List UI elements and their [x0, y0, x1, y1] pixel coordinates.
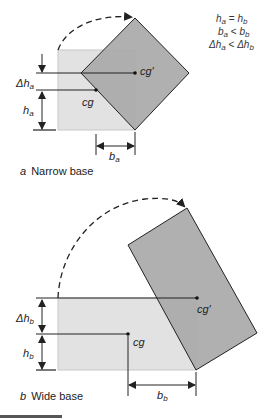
panel-a-cg-label: cg: [82, 96, 95, 108]
panel-b-cg-prime-point: [195, 296, 199, 300]
relation-b: ba < bb: [218, 26, 250, 39]
panel-a-caption: aNarrow base: [20, 165, 93, 177]
panel-b-delta-h-label: Δhb: [15, 312, 35, 326]
footer-bar: [0, 415, 62, 418]
relation-h: ha = hb: [216, 13, 248, 26]
panel-a-cg-point: [94, 88, 98, 92]
panel-b-cg-label: cg: [133, 336, 146, 348]
relations-legend: ha = hb ba < bb Δha < Δhb: [208, 13, 254, 52]
panel-b-cg-prime-label: cg': [197, 303, 212, 315]
stability-diagram: cg' cg Δha ha ba aNarrow base ha = hb ba…: [0, 0, 272, 420]
panel-b-cg-point: [126, 332, 130, 336]
panel-b-wide-base: cg' cg Δhb hb bb bWide base: [15, 198, 257, 403]
panel-b-h-label: hb: [23, 347, 34, 361]
panel-a-b-label: ba: [109, 150, 120, 164]
panel-a-h-label: ha: [23, 104, 34, 118]
panel-b-b-label: bb: [157, 389, 168, 403]
panel-b-caption: bWide base: [20, 390, 83, 402]
panel-a-cg-prime-label: cg': [140, 65, 155, 77]
panel-a-narrow-base: cg' cg Δha ha ba aNarrow base: [15, 17, 189, 177]
panel-a-cg-prime-point: [133, 71, 137, 75]
panel-a-delta-h-label: Δha: [15, 77, 35, 91]
relation-delta-h: Δha < Δhb: [208, 39, 254, 52]
